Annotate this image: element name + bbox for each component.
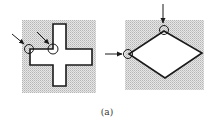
figure-caption: (a)	[0, 107, 214, 117]
cross-panel	[12, 20, 96, 93]
diamond-panel	[105, 4, 204, 90]
